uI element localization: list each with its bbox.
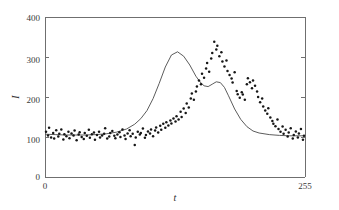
data-point bbox=[160, 129, 163, 132]
data-point bbox=[252, 79, 255, 82]
data-point bbox=[88, 129, 91, 132]
data-point bbox=[282, 133, 285, 136]
data-point bbox=[124, 138, 127, 141]
data-point bbox=[133, 144, 136, 147]
data-point bbox=[45, 131, 48, 134]
data-point bbox=[261, 97, 264, 100]
data-point bbox=[191, 92, 194, 95]
data-point bbox=[213, 41, 216, 44]
data-point bbox=[83, 138, 86, 141]
data-point bbox=[231, 81, 234, 84]
data-point bbox=[208, 71, 211, 74]
data-point bbox=[201, 73, 204, 76]
data-point bbox=[154, 129, 157, 132]
data-point bbox=[216, 45, 219, 48]
data-point bbox=[179, 111, 182, 114]
data-point bbox=[303, 135, 306, 138]
data-point bbox=[267, 107, 270, 110]
data-point bbox=[68, 137, 71, 140]
data-point bbox=[266, 113, 269, 116]
data-point bbox=[63, 133, 66, 136]
data-point bbox=[246, 83, 249, 86]
x-tick-label-max: 255 bbox=[298, 181, 312, 191]
data-point bbox=[144, 137, 147, 140]
data-point bbox=[47, 134, 50, 137]
data-point bbox=[99, 136, 102, 139]
data-point bbox=[241, 91, 244, 94]
y-tick-label-400: 400 bbox=[27, 13, 41, 23]
data-point bbox=[295, 130, 298, 133]
data-point bbox=[96, 134, 99, 137]
data-point bbox=[60, 128, 63, 131]
data-point bbox=[78, 131, 81, 134]
data-point bbox=[172, 117, 175, 120]
data-point bbox=[220, 51, 223, 54]
data-point bbox=[271, 120, 274, 123]
data-point bbox=[211, 52, 214, 55]
data-point bbox=[140, 132, 143, 135]
data-point bbox=[221, 60, 224, 63]
data-point bbox=[277, 128, 280, 131]
data-point bbox=[235, 90, 238, 93]
data-point bbox=[223, 65, 226, 68]
x-tick-label-min: 0 bbox=[43, 181, 48, 191]
data-point bbox=[75, 139, 78, 142]
y-tick-label-100: 100 bbox=[27, 135, 41, 145]
data-point bbox=[98, 131, 101, 134]
data-point bbox=[58, 133, 61, 136]
data-point bbox=[162, 123, 165, 126]
data-point bbox=[170, 122, 173, 125]
data-point bbox=[286, 135, 289, 138]
x-axis-title: t bbox=[174, 192, 177, 203]
data-point bbox=[108, 135, 111, 138]
data-point bbox=[203, 77, 206, 80]
data-point bbox=[185, 102, 188, 105]
data-point bbox=[169, 119, 172, 122]
data-point bbox=[155, 126, 158, 128]
data-point bbox=[62, 138, 65, 141]
data-point bbox=[80, 136, 83, 139]
data-point bbox=[182, 107, 185, 110]
data-point bbox=[89, 137, 92, 140]
y-axis-title: I bbox=[10, 95, 21, 100]
data-point bbox=[137, 131, 140, 134]
y-tick-label-0: 0 bbox=[36, 172, 41, 182]
data-point bbox=[121, 128, 124, 131]
data-point bbox=[91, 133, 94, 136]
data-point bbox=[48, 127, 51, 130]
data-point bbox=[152, 135, 155, 138]
data-point bbox=[128, 129, 131, 132]
data-point bbox=[167, 124, 170, 127]
data-point bbox=[195, 90, 198, 93]
data-point bbox=[242, 93, 245, 96]
data-point bbox=[175, 115, 178, 118]
figure-container: 0 100 200 300 400 0 255 t I bbox=[0, 0, 339, 210]
data-point bbox=[116, 133, 119, 136]
data-point bbox=[53, 137, 56, 140]
data-point bbox=[196, 85, 199, 88]
data-point bbox=[131, 133, 134, 136]
data-point bbox=[84, 132, 87, 135]
data-point bbox=[262, 105, 265, 108]
data-point bbox=[72, 134, 75, 137]
data-point bbox=[289, 127, 292, 130]
data-point bbox=[281, 125, 284, 128]
data-point bbox=[251, 87, 254, 90]
data-point bbox=[180, 116, 183, 119]
data-point bbox=[106, 137, 109, 140]
data-point bbox=[70, 132, 73, 135]
data-point bbox=[65, 135, 68, 138]
data-point bbox=[264, 109, 267, 112]
data-point bbox=[94, 139, 97, 142]
y-tick-label-200: 200 bbox=[27, 95, 41, 105]
data-point bbox=[269, 116, 272, 119]
data-point bbox=[276, 118, 279, 121]
data-point bbox=[292, 137, 295, 140]
data-point bbox=[210, 57, 213, 60]
data-point bbox=[113, 135, 116, 138]
data-point bbox=[302, 139, 305, 142]
data-point bbox=[259, 101, 262, 104]
data-point bbox=[86, 135, 89, 138]
data-point bbox=[230, 77, 233, 80]
data-point bbox=[287, 131, 290, 134]
